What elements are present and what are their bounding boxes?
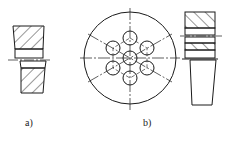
panel-a-drawing bbox=[8, 26, 52, 93]
tapered-part bbox=[190, 60, 216, 105]
engineering-drawing bbox=[0, 0, 230, 141]
upper-part-section bbox=[13, 26, 44, 49]
lower-part-section bbox=[21, 68, 45, 93]
mid-band bbox=[185, 37, 215, 43]
upper-band bbox=[185, 28, 215, 35]
panel-a-label: a) bbox=[25, 117, 33, 128]
mid-section bbox=[185, 43, 215, 50]
panel-c-drawing bbox=[180, 12, 222, 105]
panel-b-label: b) bbox=[143, 117, 151, 128]
panel-b-drawing bbox=[80, 8, 180, 110]
lower-band bbox=[185, 50, 215, 58]
upper-part-band bbox=[15, 49, 43, 58]
lower-part-band bbox=[20, 61, 46, 68]
upper-section bbox=[185, 12, 215, 28]
